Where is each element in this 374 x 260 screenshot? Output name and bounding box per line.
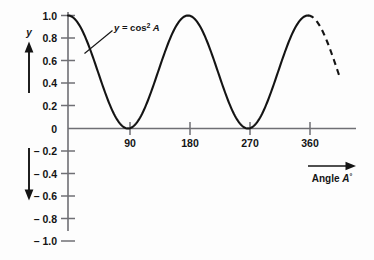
x-tick-label-270: 270 [241,137,259,149]
y-tick-label-neg1.0: – 1.0 [34,235,58,247]
y-tick-label-neg0.4: – 0.4 [34,168,58,180]
x-axis-label: Angle A° [312,173,353,185]
y-tick-label-0.4: 0.4 [42,77,57,89]
x-axis-label-degree: ° [349,173,352,180]
curve-equation-label: y = cos2 A [113,22,160,33]
x-axis-label-variable: A [341,173,349,184]
y-tick-label-neg0.6: – 0.6 [34,190,58,202]
y-tick-label-0.6: 0.6 [42,55,57,67]
cosine-squared-chart: 1.0 0.8 0.6 0.4 0.2 0 – 0.2 – 0.4 – 0.6 … [0,0,374,260]
y-tick-label-0: 0 [51,123,57,135]
y-tick-label-neg0.8: – 0.8 [34,213,58,225]
x-tick-label-180: 180 [181,137,199,149]
y-tick-label-1.0: 1.0 [42,10,57,22]
y-axis-label: y [25,27,32,38]
y-tick-label-0.2: 0.2 [42,100,57,112]
x-tick-label-90: 90 [124,137,136,149]
x-axis-label-text: Angle [312,173,343,184]
x-tick-label-360: 360 [301,137,319,149]
curve-equation-A: A [150,22,159,33]
chart-svg: 1.0 0.8 0.6 0.4 0.2 0 – 0.2 – 0.4 – 0.6 … [0,0,374,260]
y-tick-label-neg0.2: – 0.2 [34,145,58,157]
y-tick-label-0.8: 0.8 [42,32,57,44]
